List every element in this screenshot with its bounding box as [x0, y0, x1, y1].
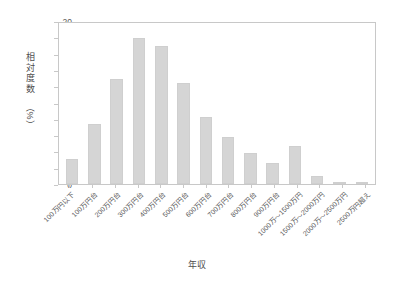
x-axis-tick-mark — [138, 185, 139, 188]
bar-slot — [61, 23, 83, 184]
chart-figure: 相 対 度 数 （%） 02468101214161820 100万円以下100… — [0, 0, 393, 283]
bar-slot — [262, 23, 284, 184]
x-axis-tick-mark — [69, 185, 70, 188]
bar-slot — [239, 23, 261, 184]
bar-slot — [172, 23, 194, 184]
y-axis-tick-mark — [54, 185, 58, 186]
bar-slot — [351, 23, 373, 184]
bar — [222, 137, 234, 184]
bar — [110, 79, 122, 184]
bar — [133, 38, 145, 184]
x-axis-title: 年収 — [0, 258, 393, 271]
x-axis-tick-mark — [115, 185, 116, 188]
bar — [311, 176, 323, 184]
x-axis-tick-mark — [160, 185, 161, 188]
x-axis-tick-mark — [206, 185, 207, 188]
bar-series — [59, 23, 375, 184]
bar-slot — [195, 23, 217, 184]
bar — [88, 124, 100, 184]
plot-area — [58, 22, 376, 185]
bar-slot — [150, 23, 172, 184]
y-axis-title-char: 数 — [22, 84, 38, 95]
bar — [244, 153, 256, 184]
bar — [356, 182, 368, 184]
x-axis-tick-mark — [319, 185, 320, 188]
bar — [155, 46, 167, 184]
y-axis-unit-label: （%） — [24, 103, 37, 121]
y-axis-title: 相 対 度 数 — [22, 52, 38, 94]
bar — [177, 83, 189, 184]
bar-slot — [128, 23, 150, 184]
x-axis-tick-mark — [251, 185, 252, 188]
x-axis-tick-mark — [92, 185, 93, 188]
bar-slot — [306, 23, 328, 184]
bar-slot — [328, 23, 350, 184]
bar — [66, 159, 78, 184]
bar — [200, 117, 212, 184]
x-axis-tick-mark — [183, 185, 184, 188]
x-axis-tick-mark — [297, 185, 298, 188]
x-axis-tick-mark — [342, 185, 343, 188]
bar — [266, 163, 278, 184]
x-axis-tick-mark — [365, 185, 366, 188]
x-axis-tick-mark — [228, 185, 229, 188]
bar-slot — [217, 23, 239, 184]
y-axis-title-char: 度 — [22, 73, 38, 84]
bar-slot — [106, 23, 128, 184]
bar-slot — [83, 23, 105, 184]
bar-slot — [284, 23, 306, 184]
bar — [289, 146, 301, 184]
y-axis-title-char: 対 — [22, 63, 38, 74]
bar — [333, 182, 345, 184]
y-axis-title-char: 相 — [22, 52, 38, 63]
x-axis-tick-mark — [274, 185, 275, 188]
